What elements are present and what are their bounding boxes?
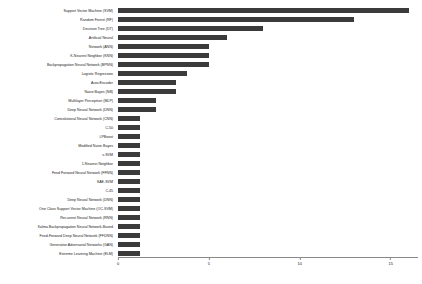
bar [118,80,176,85]
bar-row [118,24,418,33]
category-label: Feed Forward Neural Network (FFNN) [0,168,116,177]
category-label: Modified Naive Bayes [0,141,116,150]
category-label: K-Nearest Neighbor (KNN) [0,51,116,60]
category-label: Kalma Backpropagation Neural Network-Bas… [0,222,116,231]
bar [118,170,140,175]
bar [118,125,140,130]
bar [118,8,409,13]
category-label-text: Feed-Forward Deep Neural Network (FFDNN) [40,234,114,238]
category-label: Random Forest (RF) [0,15,116,24]
bar [118,224,140,229]
bar [118,152,140,157]
x-tick-label: 15 [388,258,392,267]
category-label-text: Logistic Regression [82,72,113,76]
bar [118,107,156,112]
bar-row [118,42,418,51]
bar-row [118,6,418,15]
category-label: Feed-Forward Deep Neural Network (FFDNN) [0,231,116,240]
category-label-text: 1-Nearest Neighbor [82,162,113,166]
category-label: Deep Neural Network (DNN) [0,105,116,114]
bar-row [118,123,418,132]
category-label: Support Vector Machine (SVM) [0,6,116,15]
bar [118,242,140,247]
category-label: Logistic Regression [0,69,116,78]
category-label-text: Deep Neural Network (DNN) [67,108,113,112]
bar [118,188,140,193]
bar-row [118,105,418,114]
bar [118,62,209,67]
category-label-text: v-SVM [102,153,113,157]
bar [118,233,140,238]
bar-row [118,60,418,69]
bar-row [118,33,418,42]
bar-row [118,150,418,159]
bar-row [118,213,418,222]
bar [118,251,140,256]
bar-row [118,78,418,87]
category-label: Auto-Encoder [0,78,116,87]
category-label: Network (ANN) [0,42,116,51]
category-label: One Class Support Vector Machine (OC-SVM… [0,204,116,213]
category-label-text: Support Vector Machine (SVM) [63,9,113,13]
tick-mark [117,258,118,260]
bar-row [118,96,418,105]
bar [118,98,156,103]
category-label: Decision Tree (DT) [0,24,116,33]
category-label-text: Network (ANN) [89,45,113,49]
category-label-text: Artificial Neural [89,36,113,40]
x-tick-label: 5 [208,258,210,267]
category-label-text: Feed Forward Neural Network (FFNN) [52,171,113,175]
tick-mark [299,258,300,260]
bar-row [118,177,418,186]
bar-row [118,195,418,204]
category-label: Convolutional Neural Network (CNN) [0,114,116,123]
bar [118,26,263,31]
x-tick-label: 10 [298,258,302,267]
bar [118,44,209,49]
category-label: Backpropagation Neural Network (BPNN) [0,60,116,69]
category-axis-labels: Support Vector Machine (SVM)Random Fores… [0,6,116,258]
bar [118,215,140,220]
category-label-text: Kalma Backpropagation Neural Network-Bas… [38,225,113,229]
bar-row [118,51,418,60]
bar [118,161,140,166]
category-label-text: LPBoost [99,135,113,139]
bar [118,143,140,148]
category-label: Multilayer Perceptron (MLP) [0,96,116,105]
bar [118,206,140,211]
category-label-text: Generative Adversarial Networks (GAN) [49,243,113,247]
category-label-text: Convolutional Neural Network (CNN) [54,117,113,121]
category-label-text: One Class Support Vector Machine (OC-SVM… [39,207,113,211]
category-label: C.45 [0,186,116,195]
bar-row [118,186,418,195]
tick-mark [208,258,209,260]
bar-row [118,231,418,240]
category-label-text: Random Forest (RF) [80,18,113,22]
bar-row [118,87,418,96]
category-label-text: C-50 [105,126,113,130]
category-label-text: Backpropagation Neural Network (BPNN) [47,63,113,67]
bar-row [118,141,418,150]
x-axis-ticks: 051015 [118,258,418,270]
category-label: Naive Bayes (NB) [0,87,116,96]
bar-row [118,159,418,168]
category-label-text: Decision Tree (DT) [83,27,113,31]
category-label-text: C.45 [105,189,113,193]
bar [118,71,187,76]
bar-row [118,240,418,249]
category-label-text: K-Nearest Neighbor (KNN) [70,54,113,58]
category-label-text: Recurrent Neural Network (RNN) [60,216,113,220]
bar [118,35,227,40]
category-label-text: Extreme Learning Machine (ELM) [59,252,113,256]
category-label-text: SAE-SVM [97,180,113,184]
category-label-text: Naive Bayes (NB) [84,90,113,94]
bar-row [118,132,418,141]
bar-row [118,204,418,213]
category-label-text: Modified Naive Bayes [78,144,113,148]
category-label: SAE-SVM [0,177,116,186]
bar-row [118,114,418,123]
category-label-text: Deep Neural Network (DNN) [67,198,113,202]
bar-series [118,6,418,258]
category-label: Generative Adversarial Networks (GAN) [0,240,116,249]
bar-row [118,168,418,177]
